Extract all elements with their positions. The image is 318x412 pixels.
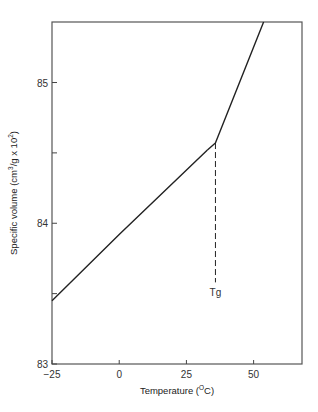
x-axis-title: Temperature (OC) <box>140 384 214 396</box>
y-tick-label: 84 <box>37 218 49 229</box>
x-tick-label: 0 <box>116 369 122 380</box>
y-tick-label: 83 <box>37 359 49 370</box>
tg-annotation: Tg <box>210 143 222 298</box>
x-tick-label: 50 <box>248 369 260 380</box>
plot-frame <box>52 22 302 364</box>
y-axis-ticks: 838485 <box>37 78 57 370</box>
tg-label: Tg <box>210 287 222 298</box>
series-line <box>52 150 207 301</box>
series-line <box>207 22 263 150</box>
x-tick-label: −25 <box>44 369 61 380</box>
chart: −2502550 838485 Tg Temperature (OC) Spec… <box>0 0 318 412</box>
x-axis-ticks: −2502550 <box>44 360 260 380</box>
y-tick-label: 85 <box>37 78 49 89</box>
data-series <box>52 22 264 301</box>
y-axis-title: Specific volume (cm3/g x 102) <box>7 131 19 255</box>
x-tick-label: 25 <box>181 369 193 380</box>
